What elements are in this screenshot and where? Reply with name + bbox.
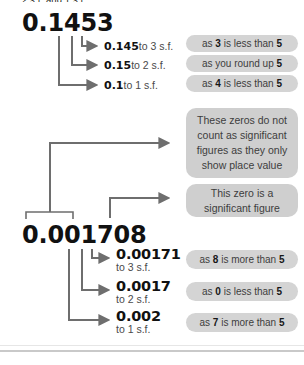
result-value: 0.15 <box>104 59 131 72</box>
reason-callout-1-1sf: as 4 is less than 5 <box>186 75 298 92</box>
result-row-2-2sf: 0.0017 to 2 s.f. <box>116 280 171 306</box>
significant-figures-diagram: 2 s.f. and 1 s.f. 0.1453 0.145to 3 s.f. <box>0 0 304 365</box>
result-precision: to 2 s.f. <box>131 59 165 71</box>
result-row-2-1sf: 0.002 to 1 s.f. <box>116 310 161 336</box>
reason-text: as 4 is less than 5 <box>202 77 282 91</box>
reason-callout-1-3sf: as 3 is less than 5 <box>186 35 298 52</box>
reason-text: as 7 is more than 5 <box>199 316 284 330</box>
result-precision: to 2 s.f. <box>116 293 171 306</box>
reason-text: as you round up 5 <box>202 57 282 71</box>
reason-text: as 0 is less than 5 <box>202 285 282 299</box>
result-precision: to 3 s.f. <box>116 261 181 274</box>
source-number-2: 0.001708 <box>22 221 146 249</box>
reason-text: as 8 is more than 5 <box>199 253 284 267</box>
result-value: 0.002 <box>116 310 161 323</box>
reason-text: as 3 is less than 5 <box>202 37 282 51</box>
result-value: 0.0017 <box>116 280 171 293</box>
annotation-callout-place-value: These zeros do not count as significant … <box>186 108 298 178</box>
result-row-1-1sf: 0.1to 1 s.f. <box>104 79 158 92</box>
reason-callout-2-1sf: as 7 is more than 5 <box>186 313 298 332</box>
result-row-1-2sf: 0.15to 2 s.f. <box>104 59 166 72</box>
result-precision: to 1 s.f. <box>124 79 158 91</box>
result-precision: to 1 s.f. <box>116 323 161 336</box>
result-row-1-3sf: 0.145to 3 s.f. <box>104 40 173 53</box>
result-precision: to 3 s.f. <box>139 40 173 52</box>
result-row-2-3sf: 0.00171 to 3 s.f. <box>116 248 181 274</box>
reason-callout-2-3sf: as 8 is more than 5 <box>186 250 298 269</box>
result-value: 0.1 <box>104 79 124 92</box>
annotation-callout-significant-zero: This zero is a significant figure <box>186 184 298 217</box>
result-value: 0.145 <box>104 40 139 53</box>
annotation-text: This zero is a significant figure <box>192 186 292 216</box>
source-number-1: 0.1453 <box>22 9 113 37</box>
annotation-text: These zeros do not count as significant … <box>192 113 292 173</box>
reason-callout-2-2sf: as 0 is less than 5 <box>186 282 298 301</box>
result-value: 0.00171 <box>116 248 181 261</box>
reason-callout-1-2sf: as you round up 5 <box>186 55 298 72</box>
